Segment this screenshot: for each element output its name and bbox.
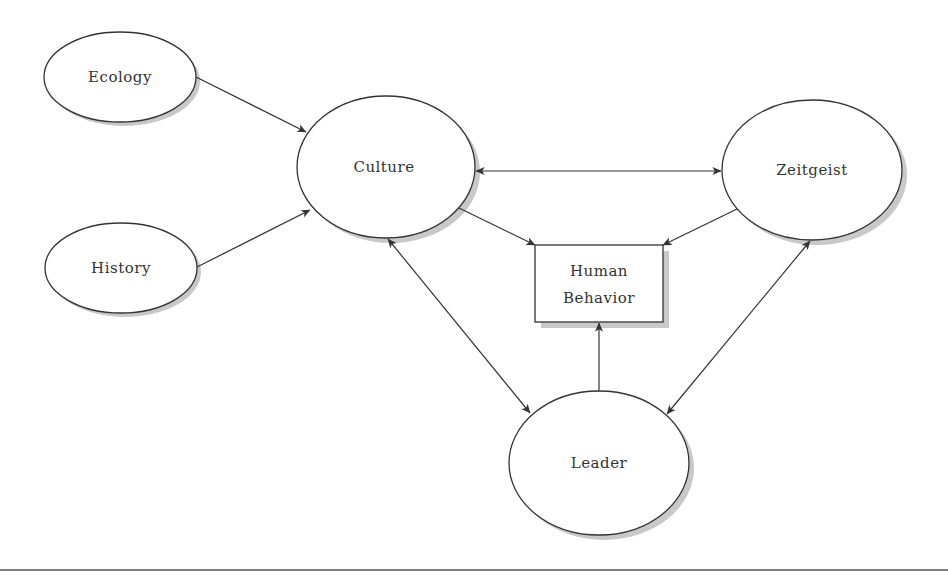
node-leader: Leader (509, 391, 689, 535)
history-label: History (91, 259, 151, 277)
node-ecology: Ecology (44, 32, 196, 122)
edge-culture-leader (388, 239, 530, 413)
node-human-behavior: Human Behavior (535, 245, 663, 322)
influence-diagram: Ecology History Culture Zeitgeist Leader… (0, 0, 948, 579)
node-zeitgeist: Zeitgeist (722, 100, 902, 240)
edge-history-culture (197, 210, 310, 267)
edges (196, 77, 810, 414)
ecology-label: Ecology (88, 68, 152, 86)
culture-label: Culture (353, 158, 414, 176)
human-behavior-label-line1: Human (570, 262, 628, 280)
node-history: History (45, 223, 197, 313)
edge-culture-human-behavior (459, 208, 535, 245)
node-culture: Culture (297, 96, 475, 238)
human-behavior-label-line2: Behavior (563, 289, 635, 307)
zeitgeist-label: Zeitgeist (776, 161, 848, 179)
edge-ecology-culture (196, 77, 306, 132)
edge-zeitgeist-leader (667, 241, 810, 414)
human-behavior-box (535, 245, 663, 322)
edge-zeitgeist-human-behavior (663, 209, 737, 245)
leader-label: Leader (571, 454, 628, 472)
